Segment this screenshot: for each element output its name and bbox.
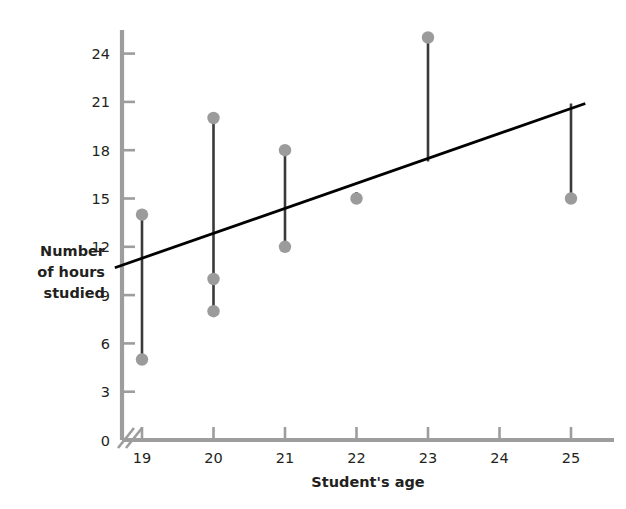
regression-line — [115, 104, 585, 268]
scatterplot-canvas: 0369121518212419202122232425Student's ag… — [0, 0, 626, 509]
y-tick-label: 15 — [92, 191, 110, 207]
data-point — [422, 31, 434, 43]
chart-figure: 0369121518212419202122232425Student's ag… — [0, 0, 626, 509]
y-axis-title-line: of hours — [37, 264, 105, 280]
data-point — [136, 353, 148, 365]
y-tick-label: 18 — [92, 143, 110, 159]
x-tick-label: 23 — [419, 450, 437, 466]
x-tick-label: 21 — [276, 450, 294, 466]
data-point — [279, 144, 291, 156]
y-axis-title-line: Number — [40, 243, 106, 259]
data-point — [207, 273, 219, 285]
y-axis-title: Numberof hoursstudied — [37, 243, 106, 301]
x-axis-ticks: 19202122232425 — [133, 427, 580, 466]
data-point — [207, 305, 219, 317]
data-point — [350, 192, 362, 204]
data-point — [207, 112, 219, 124]
x-tick-label: 22 — [347, 450, 365, 466]
x-tick-label: 24 — [490, 450, 508, 466]
data-point — [565, 192, 577, 204]
data-point — [136, 208, 148, 220]
x-tick-label: 25 — [562, 450, 580, 466]
x-tick-label: 20 — [204, 450, 222, 466]
y-tick-label: 3 — [101, 384, 110, 400]
y-axis-title-line: studied — [44, 285, 105, 301]
data-points — [136, 31, 577, 365]
x-tick-label: 19 — [133, 450, 151, 466]
data-point — [279, 241, 291, 253]
y-tick-label: 6 — [101, 336, 110, 352]
y-tick-label: 21 — [92, 94, 110, 110]
x-axis-title: Student's age — [311, 474, 424, 490]
y-tick-label: 0 — [101, 433, 110, 449]
y-tick-label: 24 — [92, 46, 110, 62]
